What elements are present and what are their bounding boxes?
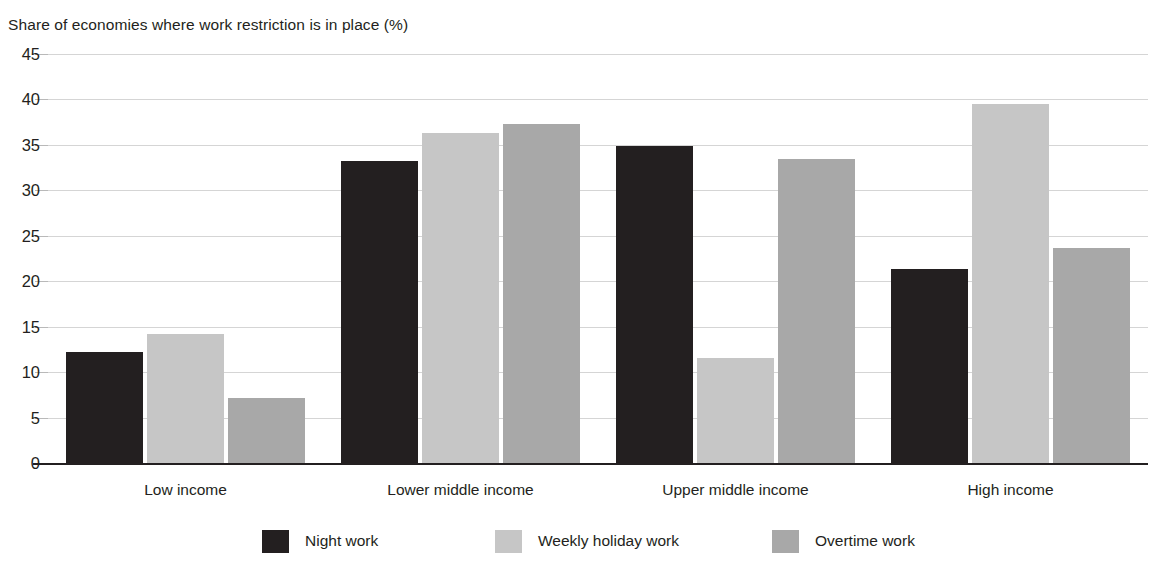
legend-swatch-overtime-work xyxy=(772,530,799,553)
bar-group xyxy=(341,54,580,463)
bar[interactable] xyxy=(616,146,693,463)
category-label: Lower middle income xyxy=(387,480,533,500)
category-label: High income xyxy=(967,480,1053,500)
bar[interactable] xyxy=(972,104,1049,463)
y-axis-tick-label: 35 xyxy=(0,137,40,153)
bar[interactable] xyxy=(503,124,580,463)
y-axis-tick-label: 20 xyxy=(0,273,40,289)
chart-legend: Night workWeekly holiday workOvertime wo… xyxy=(0,528,1158,568)
y-axis-tick-label: 0 xyxy=(0,455,40,471)
category-label: Low income xyxy=(144,480,227,500)
y-axis-tick-label: 40 xyxy=(0,91,40,107)
chart-title: Share of economies where work restrictio… xyxy=(8,16,408,34)
bar[interactable] xyxy=(228,398,305,463)
bar[interactable] xyxy=(778,159,855,463)
bar-chart-figure: Share of economies where work restrictio… xyxy=(0,0,1158,575)
bar-group xyxy=(616,54,855,463)
category-axis-labels: Low incomeLower middle incomeUpper middl… xyxy=(48,480,1148,504)
legend-swatch-weekly-holiday-work xyxy=(495,530,522,553)
bars-layer xyxy=(48,54,1148,463)
x-axis-line xyxy=(48,463,1148,465)
legend-label: Overtime work xyxy=(815,531,915,551)
legend-item[interactable]: Night work xyxy=(262,528,378,554)
legend-item[interactable]: Overtime work xyxy=(772,528,915,554)
bar[interactable] xyxy=(697,358,774,463)
y-axis-tick-label: 5 xyxy=(0,410,40,426)
bar[interactable] xyxy=(891,269,968,464)
bar[interactable] xyxy=(147,334,224,463)
y-axis-tick-label: 25 xyxy=(0,228,40,244)
legend-swatch-night-work xyxy=(262,530,289,553)
bar-group xyxy=(66,54,305,463)
bar[interactable] xyxy=(341,161,418,463)
bar[interactable] xyxy=(422,133,499,463)
legend-label: Weekly holiday work xyxy=(538,531,679,551)
bar[interactable] xyxy=(1053,248,1130,463)
plot-area: 454035302520151050 xyxy=(48,54,1148,463)
bar-group xyxy=(891,54,1130,463)
y-axis-tick-label: 45 xyxy=(0,46,40,62)
legend-item[interactable]: Weekly holiday work xyxy=(495,528,679,554)
y-axis-tick-label: 30 xyxy=(0,182,40,198)
category-label: Upper middle income xyxy=(662,480,808,500)
legend-label: Night work xyxy=(305,531,378,551)
bar[interactable] xyxy=(66,352,143,463)
y-axis-tick-label: 15 xyxy=(0,319,40,335)
y-axis-tick-label: 10 xyxy=(0,364,40,380)
